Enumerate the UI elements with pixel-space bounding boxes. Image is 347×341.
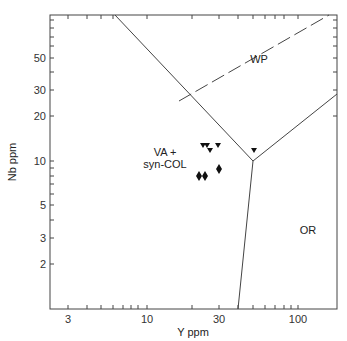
- discrimination-diagram: 3 10 30 100 50 30 20 10 5 3 2 Y ppm Nb p…: [0, 0, 347, 341]
- region-label-wp: WP: [250, 53, 268, 65]
- y-axis-title: Nb ppm: [6, 143, 18, 182]
- x-tick-label: 30: [213, 313, 225, 325]
- y-tick-label: 30: [34, 84, 46, 96]
- x-axis-title: Y ppm: [177, 326, 209, 338]
- diamond-series: [196, 164, 222, 181]
- y-tick-label: 3: [40, 232, 46, 244]
- y-tick-label: 10: [34, 155, 46, 167]
- triangle-series: [200, 143, 257, 153]
- data-point-triangle: [215, 143, 221, 148]
- x-tick-label: 10: [141, 313, 153, 325]
- boundary-va-or: [238, 161, 253, 309]
- y-tick-labels: 50 30 20 10 5 3 2: [34, 52, 46, 270]
- data-point-triangle: [251, 148, 257, 153]
- y-tick-label: 20: [34, 110, 46, 122]
- plot-frame: [50, 15, 337, 309]
- region-label-or: OR: [300, 224, 317, 236]
- x-tick-label: 3: [65, 313, 71, 325]
- y-tick-label: 2: [40, 258, 46, 270]
- y-tick-label: 5: [40, 199, 46, 211]
- y-tick-label: 50: [34, 52, 46, 64]
- x-tick-label: 100: [289, 313, 307, 325]
- region-label-syncol: syn-COL: [143, 158, 186, 170]
- data-point-diamond: [202, 171, 208, 181]
- boundary-wp-or: [253, 94, 337, 161]
- boundary-va-wp: [115, 15, 253, 161]
- data-point-diamond: [196, 171, 202, 181]
- data-point-triangle: [207, 148, 213, 153]
- region-label-va: VA +: [154, 146, 177, 158]
- x-tick-labels: 3 10 30 100: [65, 313, 307, 325]
- data-point-triangle: [204, 143, 210, 148]
- data-point-diamond: [216, 164, 222, 174]
- y-axis-ticks: [50, 20, 337, 264]
